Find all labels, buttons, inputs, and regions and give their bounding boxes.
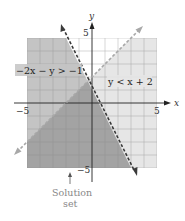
y-axis-label: y	[88, 11, 95, 21]
inequality-graph: x y −5 5 5 −5 −2x − y > −1 y < x + 2 Sol…	[0, 0, 185, 221]
tick-label-x-max: 5	[154, 106, 160, 116]
tick-label-y-min: −5	[77, 165, 91, 175]
line2-arrow-up-icon	[136, 26, 144, 34]
solution-set-label-line1: Solution	[52, 187, 92, 198]
x-axis-arrow-icon	[164, 101, 171, 106]
solution-set-label-line2: set	[63, 198, 77, 209]
line1-arrow-up-icon	[61, 24, 66, 32]
x-axis-label: x	[174, 98, 179, 108]
tick-label-x-min: −5	[16, 106, 30, 116]
y-axis-arrow-icon	[90, 22, 95, 29]
inequality-label-2: y < x + 2	[107, 76, 153, 87]
tick-label-y-max: 5	[83, 28, 89, 38]
line2-arrow-down-icon	[14, 148, 22, 156]
inequality-label-1: −2x − y > −1	[16, 65, 83, 76]
pointer-arrow-icon	[68, 172, 72, 177]
